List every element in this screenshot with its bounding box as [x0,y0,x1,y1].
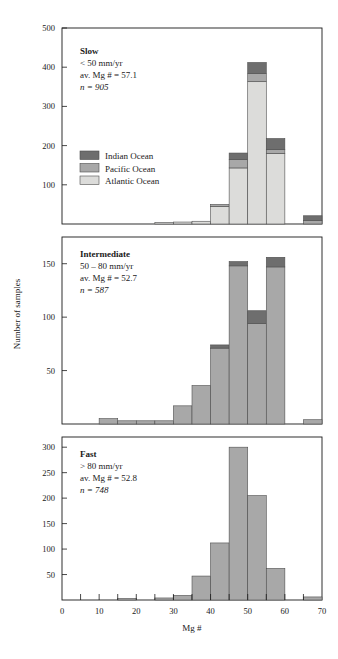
bar-intermediate-indian-bin45 [229,262,248,266]
bar-slow-pacific-bin45 [229,159,248,168]
legend-swatch-indian [80,151,99,160]
bar-intermediate-pacific-bin30 [173,406,192,424]
bar-fast-pacific-bin40 [211,543,230,600]
bar-intermediate-pacific-bin45 [229,266,248,424]
y-tick-label-slow-100: 100 [42,180,55,190]
y-tick-label-slow-300: 300 [42,101,55,111]
y-tick-label-fast-300: 300 [42,442,55,452]
bar-fast-pacific-bin55 [266,568,285,600]
bar-slow-atlantic-bin55 [266,153,285,224]
y-tick-label-fast-150: 150 [42,519,55,529]
annotation-rate-intermediate: 50 – 80 mm/yr [80,261,133,271]
legend-label-atlantic: Atlantic Ocean [105,176,160,186]
x-tick-label-0: 0 [60,606,64,616]
annotation-n-slow: n = 905 [80,82,109,92]
annotation-title-intermediate: Intermediate [80,249,130,259]
y-tick-label-fast-50: 50 [47,570,56,580]
bar-intermediate-pacific-bin10 [99,419,118,424]
panel-slow: 100200300400500Slow< 50 mm/yrav. Mg # = … [42,23,322,224]
annotation-title-fast: Fast [80,449,97,459]
bar-intermediate-pacific-bin25 [155,421,174,424]
bar-fast-pacific-bin25 [155,598,174,600]
annotation-rate-slow: < 50 mm/yr [80,58,123,68]
bar-slow-pacific-bin55 [266,150,285,154]
x-tick-label-10: 10 [95,606,104,616]
panel-intermediate: 50100150Intermediate50 – 80 mm/yrav. Mg … [42,237,322,424]
x-tick-label-70: 70 [318,606,327,616]
bar-slow-atlantic-bin50 [248,82,267,224]
y-tick-label-fast-250: 250 [42,468,55,478]
legend-label-indian: Indian Ocean [105,151,154,161]
bar-slow-atlantic-bin35 [192,221,211,224]
bar-slow-pacific-bin50 [248,73,267,81]
bar-intermediate-pacific-bin65 [303,420,322,424]
annotation-n-intermediate: n = 587 [80,285,109,295]
y-tick-label-slow-400: 400 [42,62,55,72]
annotation-title-slow: Slow [80,46,99,56]
bar-intermediate-pacific-bin55 [266,267,285,424]
bar-fast-pacific-bin45 [229,447,248,600]
annotation-avg-fast: av. Mg # = 52.8 [80,473,137,483]
x-tick-label-40: 40 [206,606,215,616]
x-tick-label-50: 50 [243,606,252,616]
bar-intermediate-indian-bin40 [211,345,230,348]
bar-intermediate-pacific-bin35 [192,386,211,424]
x-axis-title: Mg # [182,623,202,633]
y-tick-label-slow-500: 500 [42,23,55,33]
annotation-n-fast: n = 748 [80,485,109,495]
y-tick-label-slow-200: 200 [42,141,55,151]
bar-intermediate-indian-bin50 [248,311,267,324]
bar-slow-indian-bin45 [229,153,248,159]
legend: Indian OceanPacific OceanAtlantic Ocean [80,151,160,186]
bar-slow-atlantic-bin45 [229,168,248,224]
panel-fast: 50100150200250300Fast> 80 mm/yrav. Mg # … [42,437,322,600]
bar-slow-indian-bin50 [248,62,267,73]
x-tick-label-60: 60 [281,606,290,616]
histogram-figure: 100200300400500Slow< 50 mm/yrav. Mg # = … [0,0,338,659]
bar-fast-pacific-bin15 [118,598,137,600]
bar-slow-pacific-bin40 [211,204,230,206]
bar-slow-atlantic-bin40 [211,206,230,224]
bar-fast-pacific-bin65 [303,597,322,600]
bar-intermediate-pacific-bin20 [136,421,155,424]
legend-swatch-atlantic [80,176,99,185]
x-tick-label-30: 30 [169,606,178,616]
y-tick-label-intermediate-150: 150 [42,259,55,269]
y-tick-label-fast-100: 100 [42,544,55,554]
legend-label-pacific: Pacific Ocean [105,164,156,174]
x-tick-label-20: 20 [132,606,141,616]
bar-slow-atlantic-bin25 [155,222,174,224]
spreading-rate-mg-histograms: 100200300400500Slow< 50 mm/yrav. Mg # = … [0,0,338,659]
bar-slow-indian-bin55 [266,139,285,150]
bar-intermediate-indian-bin55 [266,257,285,267]
y-tick-label-intermediate-100: 100 [42,312,55,322]
annotation-avg-slow: av. Mg # = 57.1 [80,70,137,80]
y-tick-label-fast-200: 200 [42,493,55,503]
bar-fast-pacific-bin30 [173,595,192,600]
bar-slow-atlantic-bin30 [173,222,192,224]
bar-slow-indian-bin65 [303,216,322,221]
bar-fast-pacific-bin50 [248,496,267,600]
y-axis-title: Number of samples [12,278,22,349]
bar-intermediate-pacific-bin15 [118,421,137,424]
y-tick-label-intermediate-50: 50 [47,366,56,376]
annotation-avg-intermediate: av. Mg # = 52.7 [80,273,137,283]
legend-swatch-pacific [80,164,99,173]
bar-intermediate-pacific-bin40 [211,348,230,424]
bar-slow-pacific-bin65 [303,220,322,224]
annotation-rate-fast: > 80 mm/yr [80,461,123,471]
bar-intermediate-pacific-bin50 [248,324,267,424]
bar-fast-pacific-bin35 [192,576,211,600]
